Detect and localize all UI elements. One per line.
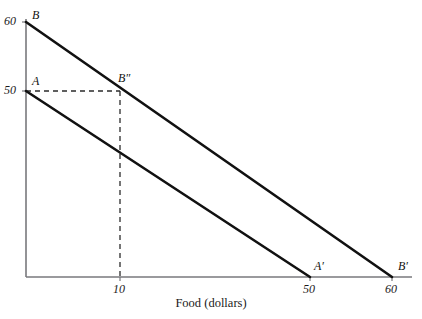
budget-line-chart: 60 50 10 50 60 B A B″ A′ B′ Food (dollar… [0,0,422,319]
outer-budget-line [26,22,392,277]
y-tick-label-60: 60 [4,14,16,29]
point-label-b-double-prime: B″ [118,71,130,86]
point-label-b-prime: B′ [398,259,408,274]
x-tick-label-50: 50 [303,282,315,297]
inner-budget-line [26,91,310,277]
point-label-a-prime: A′ [314,259,324,274]
x-axis-title: Food (dollars) [0,296,422,311]
point-label-a: A [32,74,39,89]
y-tick-label-50: 50 [4,83,16,98]
x-tick-label-10: 10 [113,282,125,297]
chart-canvas [0,0,422,319]
point-label-b: B [32,8,39,23]
x-tick-label-60: 60 [385,282,397,297]
